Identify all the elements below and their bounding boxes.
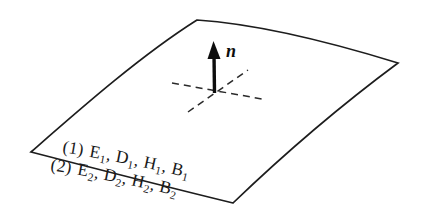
medium-two-H: , H xyxy=(121,168,147,192)
figure-canvas: n (1)E1, D1, H1, B1 (2)E2, D2, H2, B2 xyxy=(0,0,422,223)
medium-one-D: , D xyxy=(105,144,131,168)
tangent-line-horizontal-icon xyxy=(172,83,262,99)
medium-one-H: , H xyxy=(133,150,159,174)
medium-two-index: (2) xyxy=(49,154,73,177)
medium-one-B: , B xyxy=(160,156,185,180)
tangent-line-diagonal-icon xyxy=(188,70,248,112)
boundary-surface-diagram: n (1)E1, D1, H1, B1 (2)E2, D2, H2, B2 xyxy=(0,0,422,223)
medium-one-index: (1) xyxy=(61,136,85,159)
medium-two-D: , D xyxy=(93,162,119,186)
normal-vector-label: n xyxy=(226,41,236,61)
normal-vector-arrowhead-icon xyxy=(208,41,221,59)
medium-two-B: , B xyxy=(149,174,174,198)
normal-vector-shaft-icon xyxy=(214,54,215,93)
